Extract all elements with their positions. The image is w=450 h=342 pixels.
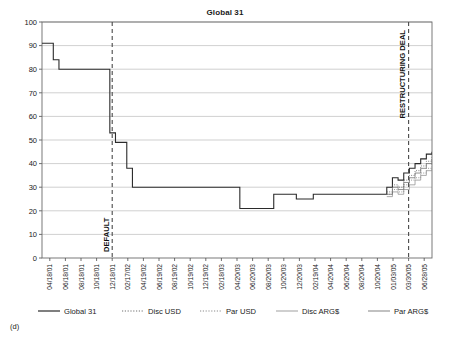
x-tick-label: 10/18/01	[93, 264, 100, 290]
x-tick-label: 12/20/03	[296, 264, 303, 290]
x-tick-label: 12/18/01	[109, 264, 116, 290]
figure-panel: Global 31 010203040506070809010004/18/01…	[0, 0, 450, 342]
y-tick-label: 10	[29, 230, 37, 239]
x-tick-label: 06/20/03	[249, 264, 256, 290]
x-tick-label: 12/19/02	[202, 264, 209, 290]
series-group	[42, 43, 432, 208]
y-tick-label: 80	[29, 65, 37, 74]
x-tick-label: 08/18/01	[78, 264, 85, 290]
annotation-label-restructuring: RESTRUCTURING DEAL	[398, 30, 407, 119]
legend-label: Par ARG$	[394, 307, 429, 316]
legend-label: Global 31	[64, 307, 97, 316]
chart-plot-area: 010203040506070809010004/18/0106/18/0108…	[0, 0, 450, 342]
annotation-label-default: DEFAULT	[102, 217, 111, 252]
y-tick-label: 100	[24, 18, 37, 27]
panel-caption: (d)	[10, 322, 19, 331]
y-tick-label: 40	[29, 159, 37, 168]
legend-label: Disc ARG$	[302, 307, 340, 316]
x-tick-label: 04/20/03	[234, 264, 241, 290]
legend-label: Par USD	[226, 307, 256, 316]
x-tick-label: 04/19/02	[140, 264, 147, 290]
x-tick-label: 08/20/03	[265, 264, 272, 290]
y-tick-label: 90	[29, 41, 37, 50]
y-tick-label: 70	[29, 89, 37, 98]
y-tick-label: 0	[33, 254, 37, 263]
x-tick-label: 02/18/03	[218, 264, 225, 290]
x-tick-label: 10/20/03	[280, 264, 287, 290]
x-tick-label: 04/20/04	[327, 264, 334, 290]
y-tick-label: 30	[29, 183, 37, 192]
data-series-line	[42, 43, 432, 208]
y-tick-label: 20	[29, 207, 37, 216]
x-tick-label: 02/19/04	[312, 264, 319, 290]
y-tick-label: 50	[29, 136, 37, 145]
x-tick-label: 01/03/05	[390, 264, 397, 290]
x-tick-label: 08/20/04	[358, 264, 365, 290]
x-tick-label: 03/30/05	[405, 264, 412, 290]
x-tick-label: 02/17/02	[124, 264, 131, 290]
x-tick-label: 06/20/04	[343, 264, 350, 290]
y-tick-label: 60	[29, 112, 37, 121]
x-tick-label: 06/19/02	[156, 264, 163, 290]
x-tick-label: 06/18/01	[62, 264, 69, 290]
x-tick-label: 10/19/02	[187, 264, 194, 290]
x-tick-label: 06/28/05	[421, 264, 428, 290]
x-tick-label: 10/20/04	[374, 264, 381, 290]
legend-label: Disc USD	[148, 307, 181, 316]
x-tick-label: 08/19/02	[171, 264, 178, 290]
x-tick-label: 04/18/01	[46, 264, 53, 290]
